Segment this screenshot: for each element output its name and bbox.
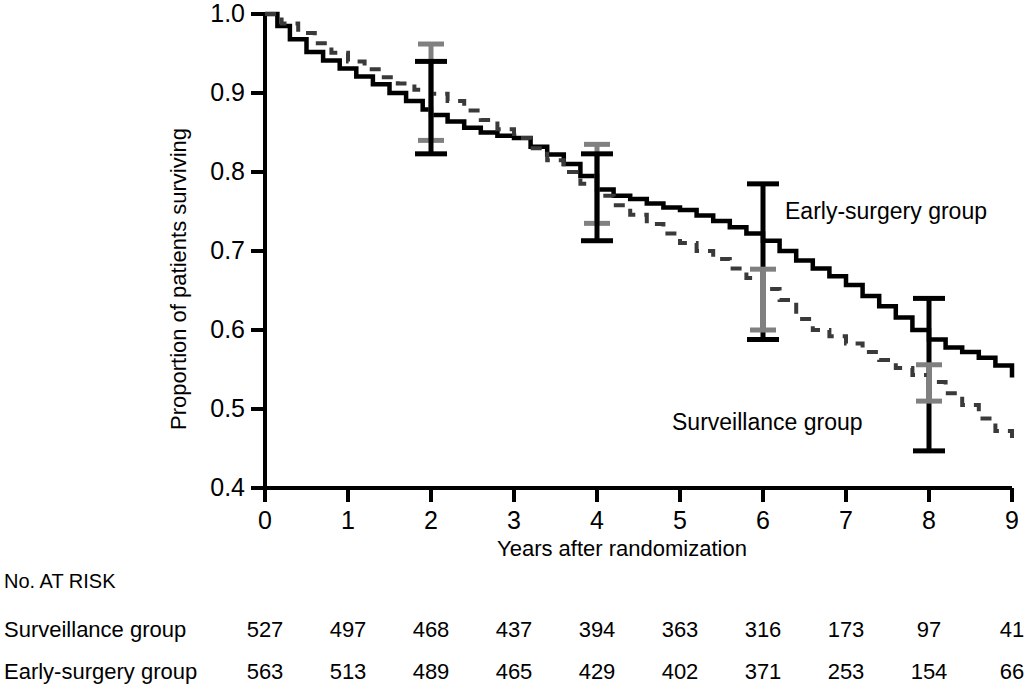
risk-cell: 41	[982, 617, 1028, 643]
y-tick-0.5: 0.5	[187, 394, 245, 423]
risk-cell: 154	[899, 659, 959, 685]
x-tick-3: 3	[494, 506, 534, 535]
axes	[251, 14, 1012, 502]
risk-row-label-early-surgery: Early-surgery group	[4, 659, 197, 685]
risk-cell: 563	[235, 659, 295, 685]
y-tick-0.6: 0.6	[187, 315, 245, 344]
risk-cell: 363	[650, 617, 710, 643]
x-tick-8: 8	[909, 506, 949, 535]
risk-cell: 66	[982, 659, 1028, 685]
x-tick-9: 9	[992, 506, 1028, 535]
risk-cell: 468	[401, 617, 461, 643]
risk-cell: 316	[733, 617, 793, 643]
risk-cell: 513	[318, 659, 378, 685]
error-bar-surveillance-group-year-6	[750, 269, 776, 330]
risk-table-header: No. AT RISK	[4, 570, 116, 593]
risk-cell: 402	[650, 659, 710, 685]
risk-row-label-surveillance: Surveillance group	[4, 617, 186, 643]
risk-cell: 429	[567, 659, 627, 685]
x-tick-5: 5	[660, 506, 700, 535]
x-tick-4: 4	[577, 506, 617, 535]
risk-cell: 97	[899, 617, 959, 643]
x-tick-6: 6	[743, 506, 783, 535]
y-tick-1.0: 1.0	[187, 0, 245, 28]
x-axis-title: Years after randomization	[497, 536, 747, 562]
risk-cell: 489	[401, 659, 461, 685]
y-axis-title: Proportion of patients surviving	[166, 128, 192, 430]
y-tick-0.4: 0.4	[187, 473, 245, 502]
risk-cell: 437	[484, 617, 544, 643]
annotation-early-surgery-group: Early-surgery group	[785, 198, 987, 225]
risk-cell: 465	[484, 659, 544, 685]
risk-cell: 394	[567, 617, 627, 643]
risk-cell: 173	[816, 617, 876, 643]
annotation-surveillance-group: Surveillance group	[672, 409, 863, 436]
error-bars	[415, 44, 945, 451]
x-tick-7: 7	[826, 506, 866, 535]
x-tick-2: 2	[411, 506, 451, 535]
risk-cell: 497	[318, 617, 378, 643]
risk-cell: 527	[235, 617, 295, 643]
x-tick-0: 0	[245, 506, 285, 535]
y-tick-0.9: 0.9	[187, 78, 245, 107]
risk-cell: 371	[733, 659, 793, 685]
risk-cell: 253	[816, 659, 876, 685]
x-tick-1: 1	[328, 506, 368, 535]
y-tick-0.8: 0.8	[187, 157, 245, 186]
y-tick-0.7: 0.7	[187, 236, 245, 265]
data-series	[265, 14, 1012, 438]
curve-surveillance-group	[265, 14, 1012, 438]
